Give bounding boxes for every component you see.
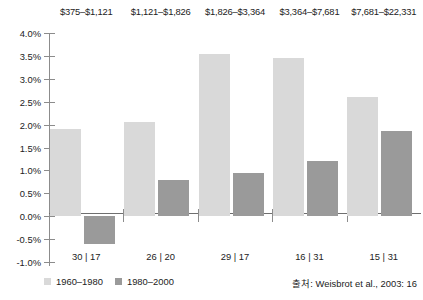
bar <box>199 54 230 217</box>
group-sublabel-row: 30 | 17 26 | 20 29 | 17 16 | 31 15 | 31 <box>49 251 421 267</box>
group-sublabel: 15 | 31 <box>347 251 421 267</box>
legend-swatch-icon <box>44 278 51 285</box>
legend-swatch-icon <box>115 278 122 285</box>
y-axis-label: 3.0% <box>20 73 41 84</box>
legend-label: 1980–2000 <box>127 276 174 287</box>
y-axis-tick <box>44 79 55 80</box>
y-axis-label: 0.0% <box>20 211 41 222</box>
bar <box>273 58 304 216</box>
income-range-label: $3,364–$7,681 <box>272 6 346 22</box>
bar-chart: $375–$1,121 $1,121–$1,826 $1,826–$3,364 … <box>0 0 423 300</box>
group-sublabel: 26 | 20 <box>123 251 197 267</box>
y-axis-tick <box>44 239 55 240</box>
income-range-label: $1,826–$3,364 <box>198 6 272 22</box>
bar <box>381 131 412 216</box>
y-axis-label: -0.5% <box>17 234 42 245</box>
source-note: 출처: Weisbrot et al., 2003: 16 <box>292 276 417 290</box>
group-sublabel: 29 | 17 <box>198 251 272 267</box>
legend-item-1960-1980: 1960–1980 <box>44 276 103 287</box>
bar <box>347 97 378 216</box>
bar <box>124 122 155 216</box>
legend: 1960–1980 1980–2000 <box>44 276 174 287</box>
y-axis-label: 1.5% <box>20 142 41 153</box>
income-range-label: $1,121–$1,826 <box>123 6 197 22</box>
bar <box>233 173 264 217</box>
y-axis-label: 4.0% <box>20 28 41 39</box>
y-axis-label: 2.5% <box>20 96 41 107</box>
y-axis-label: 1.0% <box>20 165 41 176</box>
income-range-label: $7,681–$22,331 <box>347 6 421 22</box>
group-sublabel: 30 | 17 <box>49 251 123 267</box>
legend-label: 1960–1980 <box>56 276 103 287</box>
bar <box>158 180 189 217</box>
y-axis-tick <box>44 125 55 126</box>
y-axis-tick <box>44 56 55 57</box>
bar <box>84 216 115 243</box>
y-axis-label: 3.5% <box>20 50 41 61</box>
y-axis-tick <box>44 102 55 103</box>
y-axis-label: 2.0% <box>20 119 41 130</box>
group-sublabel: 16 | 31 <box>272 251 346 267</box>
income-range-label: $375–$1,121 <box>49 6 123 22</box>
legend-item-1980-2000: 1980–2000 <box>115 276 174 287</box>
y-axis-tick <box>44 216 55 217</box>
bar <box>307 161 338 216</box>
bar <box>50 129 81 216</box>
y-axis-label: 0.5% <box>20 188 41 199</box>
y-axis-tick <box>44 33 55 34</box>
income-range-label-row: $375–$1,121 $1,121–$1,826 $1,826–$3,364 … <box>49 6 421 22</box>
y-axis-label: -1.0% <box>17 257 42 268</box>
plot-area: 4.0%3.5%3.0%2.5%2.0%1.5%1.0%0.5%0.0%-0.5… <box>49 30 421 266</box>
